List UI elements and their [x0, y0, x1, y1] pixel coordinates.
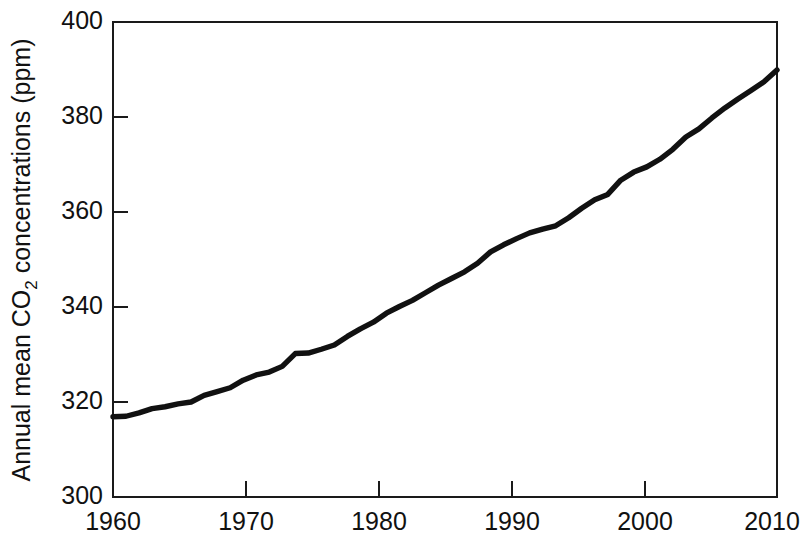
x-tick-labels: 1960 1970 1980 1990 2000 2010 [85, 507, 800, 535]
x-tick-label-1970: 1970 [218, 507, 274, 535]
y-tick-label-400: 400 [61, 6, 103, 34]
co2-data-line [113, 70, 777, 417]
chart-figure: 300 320 340 360 380 400 1960 1970 1980 1… [0, 0, 807, 557]
y-tick-label-360: 360 [61, 196, 103, 224]
y-axis-title-after: concentrations (ppm) [7, 38, 35, 280]
y-tick-label-320: 320 [61, 386, 103, 414]
x-tick-label-1990: 1990 [484, 507, 540, 535]
y-tick-label-380: 380 [61, 101, 103, 129]
y-tick-label-300: 300 [61, 481, 103, 509]
y-axis-title-subscript: 2 [22, 280, 41, 289]
y-tick-label-340: 340 [61, 291, 103, 319]
x-tick-label-1960: 1960 [85, 507, 141, 535]
chart-canvas: 300 320 340 360 380 400 1960 1970 1980 1… [0, 0, 807, 557]
y-tick-labels: 300 320 340 360 380 400 [61, 6, 103, 509]
x-tick-label-1980: 1980 [351, 507, 407, 535]
y-axis-title-before: Annual mean CO [7, 290, 35, 482]
y-tick-marks [113, 22, 128, 497]
axis-border [113, 22, 777, 497]
y-axis-title: Annual mean CO2 concentrations (ppm) [7, 38, 41, 481]
x-tick-label-2010: 2010 [744, 507, 800, 535]
x-tick-marks [113, 481, 777, 497]
plot-frame [113, 22, 777, 497]
x-tick-label-2000: 2000 [617, 507, 673, 535]
